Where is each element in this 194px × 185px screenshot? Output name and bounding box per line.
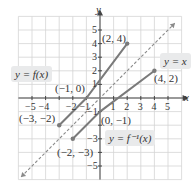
point-label-4-2: (4, 2) [154,73,178,84]
x-tick-label: 1 [111,102,116,112]
y-axis-label: y [96,4,101,15]
label-f-inverse: y = f⁻¹(x) [105,130,155,146]
y-tick-label: 1 [92,79,97,89]
x-axis-label: x [184,92,189,103]
y-tick-label: −1 [87,107,98,117]
inverse-function-graph: y x (2, 4) (−1, 0) (−3, −2) (4, 2) (0, −… [0,0,194,185]
x-tick-label: 3 [138,102,143,112]
y-tick-label: −3 [87,134,98,144]
x-tick-label: −4 [39,102,50,112]
x-tick-label: 4 [151,102,156,112]
endpoint-dot [71,137,75,141]
plot-area [0,0,194,185]
x-tick-label: 5 [165,102,170,112]
point-label-neg2-neg3: (−2, −3) [57,147,93,158]
point-label-neg3-neg2: (−3, −2) [19,113,55,124]
x-tick-label: 2 [124,102,129,112]
label-identity-line: y = x [160,53,191,69]
y-tick-label: −5 [87,161,98,171]
point-label-0-neg1: (0, −1) [101,115,131,126]
point-label-2-4: (2, 4) [102,33,126,44]
y-tick-label: 4 [92,39,97,49]
y-tick-label: 2 [92,66,97,76]
x-tick-label: −5 [25,102,36,112]
y-tick-label: 5 [92,25,97,35]
point-label-neg1-0: (−1, 0) [55,83,85,94]
endpoint-dot [57,123,61,127]
label-f-of-x: y = f(x) [11,66,52,82]
x-tick-label: −2 [66,102,77,112]
y-tick-label: 3 [92,52,97,62]
